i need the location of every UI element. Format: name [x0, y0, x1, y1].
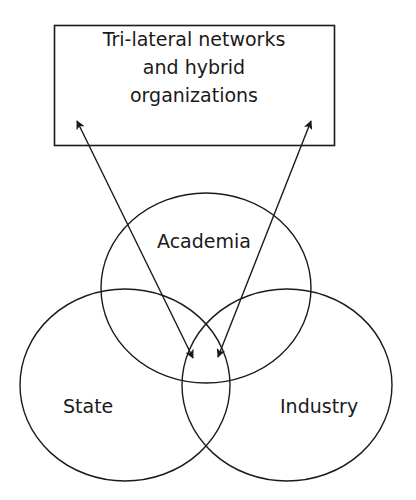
state-circle: [20, 289, 230, 481]
academia-label: Academia: [157, 230, 251, 252]
box-label-line-2: and hybrid: [54, 53, 334, 81]
state-label: State: [63, 395, 113, 417]
academia-circle: [101, 193, 311, 383]
hybrid-organizations-label: Tri-lateral networks and hybrid organiza…: [54, 25, 334, 109]
box-label-line-1: Tri-lateral networks: [54, 25, 334, 53]
box-label-line-3: organizations: [54, 81, 334, 109]
industry-label: Industry: [280, 395, 358, 417]
industry-circle: [182, 289, 392, 481]
